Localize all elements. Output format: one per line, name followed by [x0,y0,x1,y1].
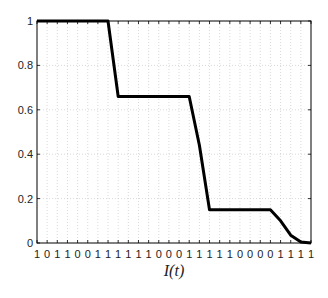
x-tick-label: 1 [125,248,131,260]
x-tick-label: 0 [176,248,182,260]
x-tick-label: 0 [85,248,91,260]
x-tick-label: 0 [247,248,253,260]
x-tick-label: 0 [44,248,50,260]
x-tick-label: 1 [64,248,70,260]
x-tick-label: 1 [217,248,223,260]
x-tick-label: 1 [186,248,192,260]
x-axis-label: I(t) [163,262,184,280]
y-tick-label: 0.6 [18,104,33,116]
x-tick-label: 1 [115,248,121,260]
x-tick-label: 1 [135,248,141,260]
x-tick-label: 1 [206,248,212,260]
x-tick-label: 1 [95,248,101,260]
y-tick-label: 0.2 [18,193,33,205]
x-tick-label: 0 [156,248,162,260]
x-tick-labels: 1011001111110001111100001111 [34,248,314,260]
x-tick-label: 1 [146,248,152,260]
x-tick-label: 1 [196,248,202,260]
x-tick-label: 1 [227,248,233,260]
x-tick-label: 1 [277,248,283,260]
data-line [37,21,311,243]
x-tick-label: 1 [105,248,111,260]
y-tick-label: 0.4 [18,148,33,160]
x-tick-label: 1 [308,248,314,260]
x-tick-label: 1 [34,248,40,260]
y-tick-label: 0.8 [18,59,33,71]
y-tick-label: 0 [27,237,33,249]
x-tick-label: 1 [54,248,60,260]
x-tick-label: 0 [257,248,263,260]
x-tick-label: 0 [166,248,172,260]
x-tick-label: 0 [237,248,243,260]
x-tick-label: 1 [298,248,304,260]
y-tick-labels: 00.20.40.60.81 [18,15,33,249]
x-tick-label: 1 [288,248,294,260]
x-tick-label: 0 [267,248,273,260]
x-tick-label: 0 [75,248,81,260]
y-tick-label: 1 [27,15,33,27]
line-chart: 00.20.40.60.81 1011001111110001111100001… [0,0,328,298]
